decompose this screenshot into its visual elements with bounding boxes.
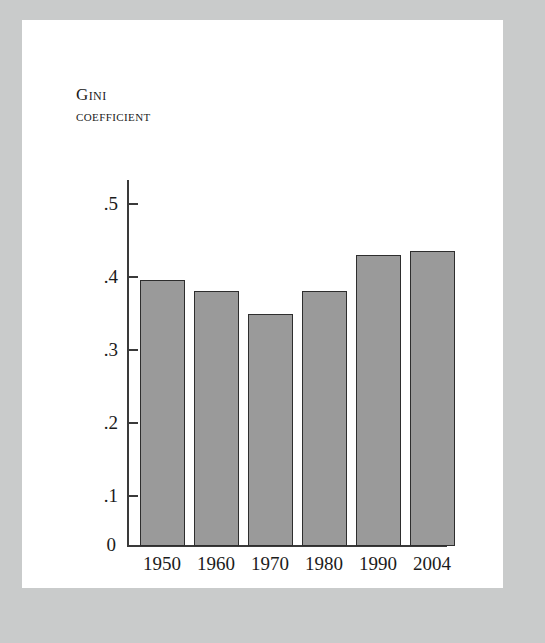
y-axis-tick-label-5: .5 [104,193,118,215]
x-axis-labels: 1950 1960 1970 1980 1990 2004 [127,553,457,583]
y-axis-tick-label-4: .4 [104,266,118,288]
chart-title-line-2: coefficient [76,106,296,126]
y-axis-tick-label-1: .1 [104,485,118,507]
x-axis-label-1980: 1980 [294,553,354,575]
x-axis-label-2004: 2004 [402,553,462,575]
bar-slot-1970 [248,314,293,546]
bar-series [127,180,447,546]
bar-1960 [194,291,239,546]
chart-title-line-1: Gini [76,84,296,106]
bar-1950 [140,280,185,546]
x-axis-label-1990: 1990 [348,553,408,575]
chart-title: Gini coefficient [76,84,296,126]
x-axis-label-1970: 1970 [240,553,300,575]
bar-2004 [410,251,455,546]
y-axis-tick-label-3: .3 [104,339,118,361]
bar-1970 [248,314,293,546]
bar-slot-1950 [140,280,185,546]
bar-slot-1990 [356,255,401,546]
bar-1980 [302,291,347,546]
x-axis-label-1960: 1960 [186,553,246,575]
bar-1990 [356,255,401,546]
chart-page: Gini coefficient .5 .4 .3 .2 .1 0 [0,0,545,643]
bar-slot-1960 [194,291,239,546]
x-axis-label-1950: 1950 [132,553,192,575]
y-axis-tick-label-2: .2 [104,412,118,434]
bar-chart: Gini coefficient .5 .4 .3 .2 .1 0 [22,20,503,588]
bar-slot-2004 [410,251,455,546]
bar-slot-1980 [302,291,347,546]
y-axis-tick-label-0: 0 [107,534,117,556]
